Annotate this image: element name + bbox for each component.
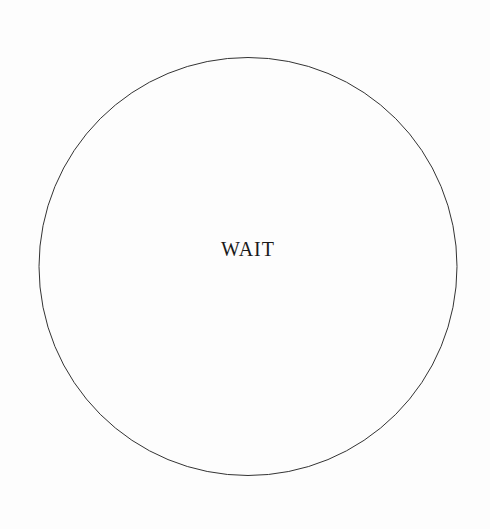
wait-sign: WAIT	[0, 0, 490, 529]
circle-outline	[0, 0, 490, 529]
wait-label: WAIT	[148, 237, 348, 261]
